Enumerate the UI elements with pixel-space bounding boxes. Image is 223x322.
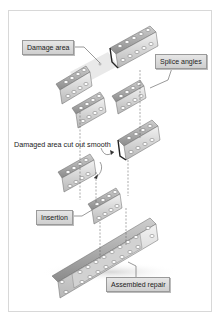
label-splice-angles: Splice angles (155, 54, 207, 69)
splice-angle-left (72, 92, 106, 128)
cut-angle-left (58, 154, 96, 192)
original-angle-right (110, 26, 158, 68)
label-assembled-repair: Assembled repair (106, 277, 170, 292)
label-damage-area: Damage area (22, 40, 74, 55)
cut-angle-right (118, 120, 160, 160)
label-insertion: Insertion (36, 210, 73, 225)
insertion-angle (88, 188, 122, 224)
label-damaged-area-cut: Damaged area cut out smooth (14, 140, 111, 149)
splice-angle-upper (112, 80, 146, 114)
leader-arrowheads (94, 150, 114, 179)
